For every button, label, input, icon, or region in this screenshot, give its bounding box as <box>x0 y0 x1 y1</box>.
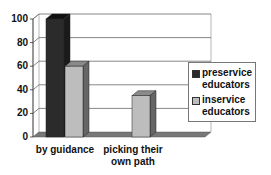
chart: 020406080100 by guidance picking their o… <box>0 0 271 175</box>
y-tick-label: 40 <box>2 85 28 95</box>
y-tick-label: 80 <box>2 38 28 48</box>
y-tick-label: 20 <box>2 108 28 118</box>
legend: preserviceeducators inserviceeducators <box>188 62 256 122</box>
bar <box>132 91 156 137</box>
x-label-by-guidance: by guidance <box>30 144 100 156</box>
bar <box>65 61 89 137</box>
y-tick-label: 60 <box>2 61 28 71</box>
x-label-picking-own-path: picking their own path <box>98 144 168 168</box>
y-tick-label: 0 <box>2 132 28 142</box>
legend-swatch-inservice <box>192 97 200 105</box>
y-tick-label: 100 <box>2 14 28 24</box>
legend-swatch-preservice <box>192 70 200 78</box>
